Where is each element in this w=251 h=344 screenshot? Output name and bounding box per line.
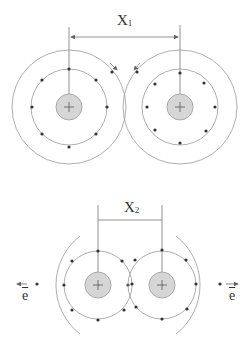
top-panel xyxy=(12,25,237,164)
bottom-panel xyxy=(17,205,238,334)
atomic-radius-diagram xyxy=(0,0,251,344)
motion-arrow xyxy=(134,63,140,70)
x1-label: X1 xyxy=(117,12,132,29)
electrons xyxy=(35,249,129,321)
outer-arc xyxy=(56,236,80,334)
electron-label-right: e xyxy=(229,288,235,304)
bottom-left-atom xyxy=(35,236,132,334)
bottom-right-atom xyxy=(128,236,222,334)
electrons xyxy=(130,248,221,320)
x2-label: X2 xyxy=(124,199,139,216)
electron-label-left: e xyxy=(22,288,28,304)
